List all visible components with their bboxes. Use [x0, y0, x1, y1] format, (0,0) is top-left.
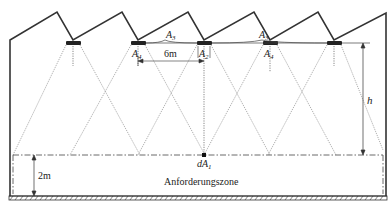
- light-cones: [13, 45, 383, 155]
- label-a2: A2: [199, 49, 209, 61]
- label-spacing: 6m: [164, 49, 177, 59]
- height-dimension: [361, 43, 365, 155]
- label-a4-right: A4: [264, 49, 274, 61]
- label-point: dA1: [197, 159, 212, 171]
- measurement-point: [202, 153, 206, 157]
- lamp-axes: [73, 46, 334, 155]
- diagram-canvas: A3 A3 A4 A4 A2 6m h 2m dA1 Anforderungsz…: [0, 0, 392, 210]
- label-a3-right: A3: [259, 30, 269, 42]
- zone-height-dimension: [32, 155, 36, 196]
- label-a3-left: A3: [166, 30, 176, 42]
- label-a4-left: A4: [132, 49, 142, 61]
- label-height: h: [367, 95, 373, 106]
- label-zone-height: 2m: [38, 171, 51, 181]
- label-zone: Anforderungszone: [164, 177, 238, 187]
- floor: [9, 196, 387, 200]
